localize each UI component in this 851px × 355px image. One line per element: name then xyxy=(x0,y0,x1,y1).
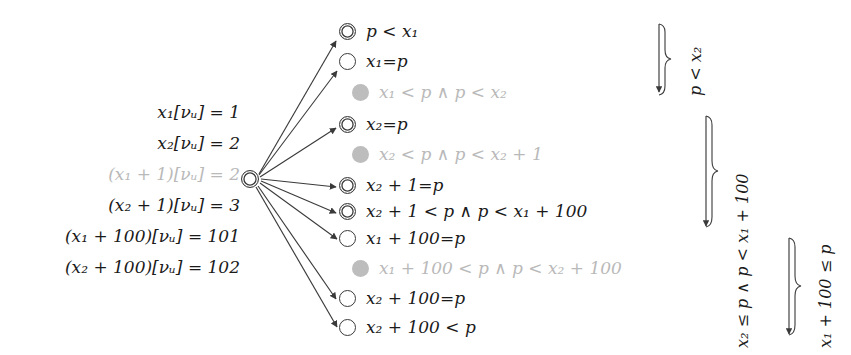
region-label: x₁=p xyxy=(366,53,408,70)
edge-to-region-2 xyxy=(259,71,337,175)
region-label: x₂ + 100 < p xyxy=(366,319,476,336)
brace-1 xyxy=(659,24,671,95)
edge-to-region-4 xyxy=(260,128,336,177)
region-label: x₁ + 100=p xyxy=(366,230,465,247)
region-node-inactive xyxy=(352,84,369,101)
region-node[interactable] xyxy=(339,319,356,336)
source-state-node[interactable] xyxy=(241,170,259,188)
edge-to-region-11 xyxy=(256,187,337,327)
valuation-row: x₂[νᵤ] = 2 xyxy=(0,135,244,166)
brace-label: p < x₂ xyxy=(688,47,704,96)
region-label: x₂ + 1 < p ∧ p < x₁ + 100 xyxy=(366,203,587,220)
edge-to-region-10 xyxy=(258,186,336,299)
edge-to-region-1 xyxy=(259,41,336,174)
region-node[interactable] xyxy=(339,230,356,247)
brace-3 xyxy=(789,238,801,335)
region-label: x₂ < p ∧ p < x₂ + 1 xyxy=(379,146,543,163)
region-node[interactable] xyxy=(339,290,356,307)
valuation-row: (x₁ + 100)[νᵤ] = 101 xyxy=(0,228,244,259)
valuation-row: (x₁ + 1)[νᵤ] = 2 xyxy=(0,166,244,197)
valuation-row: x₁[νᵤ] = 1 xyxy=(0,104,244,135)
region-node-inactive xyxy=(352,260,369,277)
region-label: x₁ < p ∧ p < x₂ xyxy=(379,84,507,101)
region-label: x₁ + 100 < p ∧ p < x₂ + 100 xyxy=(379,260,622,277)
region-node-inactive xyxy=(352,146,369,163)
edge-to-region-7 xyxy=(261,181,336,213)
brace-label: x₂ ≤ p ∧ p < x₁ + 100 xyxy=(735,173,751,348)
edge-to-region-6 xyxy=(261,179,336,187)
region-node[interactable] xyxy=(339,23,356,40)
edge-to-region-8 xyxy=(260,183,337,239)
figure-canvas: x₁[νᵤ] = 1 x₂[νᵤ] = 2 (x₁ + 1)[νᵤ] = 2 (… xyxy=(0,0,851,355)
valuation-row: (x₂ + 1)[νᵤ] = 3 xyxy=(0,197,244,228)
brace-label: x₁ + 100 ≤ p xyxy=(818,245,834,348)
brace-2 xyxy=(706,116,718,227)
region-label: x₂=p xyxy=(366,116,408,133)
region-label: x₂ + 1=p xyxy=(366,177,443,194)
region-node[interactable] xyxy=(339,177,356,194)
valuation-equation-list: x₁[νᵤ] = 1 x₂[νᵤ] = 2 (x₁ + 1)[νᵤ] = 2 (… xyxy=(0,104,244,290)
valuation-row: (x₂ + 100)[νᵤ] = 102 xyxy=(0,259,244,290)
region-label: p < x₁ xyxy=(366,23,418,40)
region-node[interactable] xyxy=(339,116,356,133)
region-node[interactable] xyxy=(339,53,356,70)
region-node[interactable] xyxy=(339,203,356,220)
region-label: x₂ + 100=p xyxy=(366,290,465,307)
